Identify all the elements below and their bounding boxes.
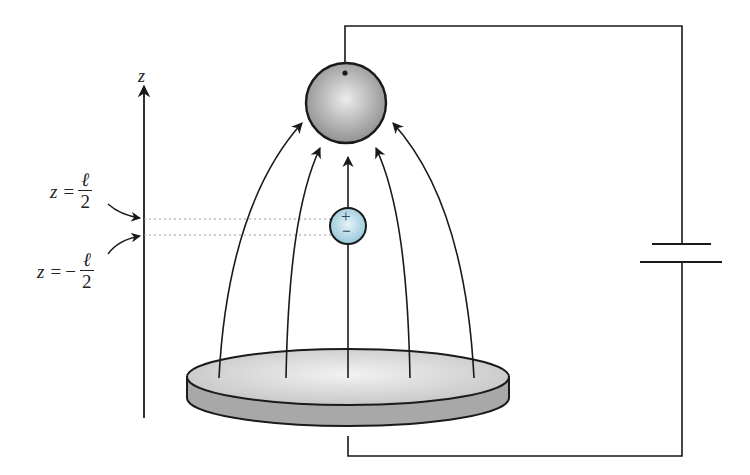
charged-sphere <box>306 63 386 143</box>
label-upper-fraction: ℓ 2 <box>78 170 92 213</box>
label-lower-numerator: ℓ <box>83 250 91 270</box>
label-upper-lhs: z <box>50 181 57 203</box>
field-lines <box>219 123 474 378</box>
dipole-minus-sign: − <box>342 223 351 240</box>
label-lower-fraction: ℓ 2 <box>80 250 94 293</box>
label-lower-lhs: z <box>37 261 44 283</box>
diagram-canvas: z + − z = ℓ 2 z = − ℓ 2 <box>0 0 750 475</box>
label-z-plus-half-l: z = ℓ 2 <box>50 170 92 213</box>
label-lower-denominator: 2 <box>82 271 92 293</box>
level-guides <box>144 219 332 235</box>
label-upper-numerator: ℓ <box>81 170 89 190</box>
z-axis-label: z <box>138 66 145 87</box>
label-pointers <box>108 204 140 254</box>
label-lower-sign: − <box>65 261 76 283</box>
label-upper-denominator: 2 <box>80 191 90 213</box>
battery <box>640 244 722 262</box>
label-upper-eq: = <box>63 181 74 203</box>
label-lower-eq: = <box>50 261 61 283</box>
diagram-svg <box>0 0 750 475</box>
label-z-minus-half-l: z = − ℓ 2 <box>37 250 94 293</box>
